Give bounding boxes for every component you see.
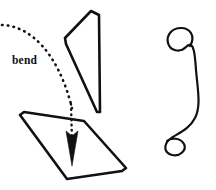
bend-diagram-svg: bend <box>0 0 216 190</box>
bend-label: bend <box>12 54 37 66</box>
figure-canvas: bend <box>0 0 216 190</box>
